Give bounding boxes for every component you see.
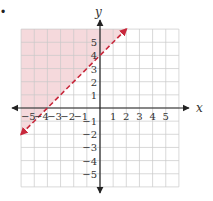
x-tick-label: 1 xyxy=(110,111,116,122)
x-axis-label: x xyxy=(196,101,203,115)
coordinate-graph: xy −5−4−3−2−112345−5−4−3−2−112345 xyxy=(0,0,213,201)
y-tick-label: −3 xyxy=(82,142,97,153)
y-axis-label: y xyxy=(94,5,102,19)
y-tick-label: −1 xyxy=(82,116,97,127)
y-tick-label: 2 xyxy=(91,77,97,88)
y-tick-label: −5 xyxy=(82,169,97,180)
y-tick-label: 3 xyxy=(91,64,97,75)
y-tick-label: −4 xyxy=(82,156,97,167)
x-tick-label: 5 xyxy=(163,111,169,122)
y-tick-label: 1 xyxy=(91,90,97,101)
y-tick-label: 4 xyxy=(91,50,97,61)
x-tick-label: 4 xyxy=(149,111,155,122)
y-tick-label: −2 xyxy=(82,129,97,140)
x-tick-label: 3 xyxy=(136,111,142,122)
y-tick-label: 5 xyxy=(91,37,97,48)
x-tick-label: 2 xyxy=(123,111,129,122)
